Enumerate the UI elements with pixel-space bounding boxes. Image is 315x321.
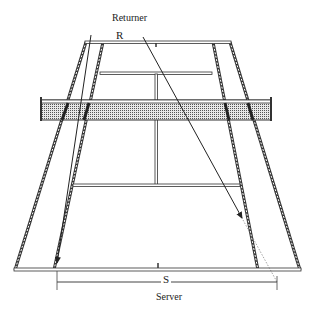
center-service-line: [155, 74, 158, 185]
server-label: Server: [156, 291, 182, 302]
net-tape: [41, 100, 271, 103]
court-drawing: [0, 0, 315, 321]
return-arrow-left: [57, 35, 91, 263]
doubles-sideline-left: [15, 42, 86, 270]
returner-label: Returner: [112, 12, 147, 23]
returner-marker: R: [116, 29, 123, 41]
singles-sideline-right: [213, 42, 258, 270]
return-arrow-extension: [243, 220, 277, 282]
tennis-court-diagram: Returner R S Server: [0, 0, 315, 321]
far-baseline: [85, 41, 231, 47]
net: [41, 97, 271, 121]
near-service-line: [73, 184, 240, 187]
doubles-sideline-right: [230, 42, 300, 270]
server-marker: S: [161, 273, 171, 285]
